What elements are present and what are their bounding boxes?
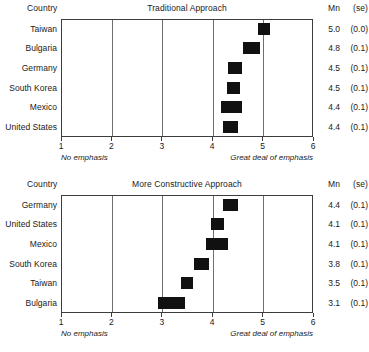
row-value-mean: 4.5 <box>318 83 340 93</box>
row-label-country: Taiwan <box>0 278 57 288</box>
row-value-mean: 3.8 <box>318 259 340 269</box>
chart-title: More Constructive Approach <box>61 179 313 189</box>
row-label-country: Germany <box>0 63 57 73</box>
axis-tick-label: 1 <box>53 317 69 327</box>
chart-row: Bulgaria4.8(0.1) <box>0 39 369 59</box>
row-value-se: (0.1) <box>344 102 368 112</box>
row-value-mean: 4.4 <box>318 122 340 132</box>
chart-header-row: CountryMore Constructive ApproachMn(se) <box>0 179 369 193</box>
x-axis: 123456 <box>61 137 313 153</box>
chart-panel: CountryMore Constructive ApproachMn(se)G… <box>0 176 369 352</box>
row-label-country: Bulgaria <box>0 43 57 53</box>
column-header-mean: Mn <box>318 3 340 13</box>
chart-title: Traditional Approach <box>61 3 313 13</box>
axis-tick-label: 5 <box>255 317 271 327</box>
row-value-mean: 5.0 <box>318 24 340 34</box>
row-value-mean: 4.1 <box>318 239 340 249</box>
column-header-mean: Mn <box>318 179 340 189</box>
row-label-country: Bulgaria <box>0 298 57 308</box>
row-value-se: (0.1) <box>344 63 368 73</box>
figure-panels: CountryTraditional ApproachMn(se)Taiwan5… <box>0 0 369 352</box>
chart-row: United States4.4(0.1) <box>0 117 369 137</box>
row-value-se: (0.1) <box>344 278 368 288</box>
column-header-country: Country <box>27 179 57 189</box>
data-bar <box>223 121 238 133</box>
row-value-mean: 4.4 <box>318 200 340 210</box>
chart-row: Mexico4.1(0.1) <box>0 234 369 254</box>
row-value-se: (0.1) <box>344 200 368 210</box>
row-value-se: (0.1) <box>344 43 368 53</box>
axis-tick-label: 6 <box>305 317 321 327</box>
chart-row: South Korea3.8(0.1) <box>0 254 369 274</box>
row-value-mean: 3.5 <box>318 278 340 288</box>
row-value-se: (0.0) <box>344 24 368 34</box>
row-label-country: Taiwan <box>0 24 57 34</box>
chart-header-row: CountryTraditional ApproachMn(se) <box>0 3 369 17</box>
row-label-country: Germany <box>0 200 57 210</box>
axis-tick-label: 2 <box>103 141 119 151</box>
row-value-se: (0.1) <box>344 219 368 229</box>
data-bar <box>221 101 242 113</box>
chart-row: Bulgaria3.1(0.1) <box>0 293 369 313</box>
row-value-mean: 4.5 <box>318 63 340 73</box>
axis-tick-label: 2 <box>103 317 119 327</box>
data-bar <box>227 82 240 94</box>
row-value-se: (0.1) <box>344 298 368 308</box>
row-label-country: United States <box>0 122 57 132</box>
x-axis: 123456 <box>61 313 313 329</box>
row-label-country: Mexico <box>0 239 57 249</box>
axis-tick-label: 3 <box>154 317 170 327</box>
row-value-se: (0.1) <box>344 239 368 249</box>
row-label-country: South Korea <box>0 259 57 269</box>
chart-rows: Taiwan5.0(0.0)Bulgaria4.8(0.1)Germany4.5… <box>0 19 369 137</box>
axis-tick-label: 1 <box>53 141 69 151</box>
column-header-se: (se) <box>344 179 368 189</box>
chart-panel: CountryTraditional ApproachMn(se)Taiwan5… <box>0 0 369 176</box>
row-value-se: (0.1) <box>344 83 368 93</box>
axis-tick-label: 6 <box>305 141 321 151</box>
axis-tick-label: 4 <box>204 141 220 151</box>
axis-note-high: Great deal of emphasis <box>0 153 313 162</box>
row-label-country: South Korea <box>0 83 57 93</box>
chart-rows: Germany4.4(0.1)United States4.1(0.1)Mexi… <box>0 195 369 313</box>
axis-tick-label: 5 <box>255 141 271 151</box>
axis-tick-label: 4 <box>204 317 220 327</box>
chart-row: Mexico4.4(0.1) <box>0 98 369 118</box>
data-bar <box>206 238 228 250</box>
chart-row: Taiwan3.5(0.1) <box>0 274 369 294</box>
chart-row: Germany4.4(0.1) <box>0 195 369 215</box>
data-bar <box>258 23 271 35</box>
row-value-mean: 3.1 <box>318 298 340 308</box>
row-value-mean: 4.1 <box>318 219 340 229</box>
row-label-country: United States <box>0 219 57 229</box>
row-value-se: (0.1) <box>344 259 368 269</box>
data-bar <box>223 199 238 211</box>
chart-row: Taiwan5.0(0.0) <box>0 19 369 39</box>
data-bar <box>158 297 185 309</box>
axis-tick-label: 3 <box>154 141 170 151</box>
data-bar <box>228 62 242 74</box>
data-bar <box>181 277 193 289</box>
axis-note-high: Great deal of emphasis <box>0 329 313 338</box>
chart-row: Germany4.5(0.1) <box>0 58 369 78</box>
data-bar <box>243 42 260 54</box>
column-header-country: Country <box>27 3 57 13</box>
data-bar <box>211 218 224 230</box>
row-value-se: (0.1) <box>344 122 368 132</box>
row-label-country: Mexico <box>0 102 57 112</box>
data-bar <box>194 258 209 270</box>
row-value-mean: 4.4 <box>318 102 340 112</box>
row-value-mean: 4.8 <box>318 43 340 53</box>
chart-row: South Korea4.5(0.1) <box>0 78 369 98</box>
column-header-se: (se) <box>344 3 368 13</box>
chart-row: United States4.1(0.1) <box>0 215 369 235</box>
